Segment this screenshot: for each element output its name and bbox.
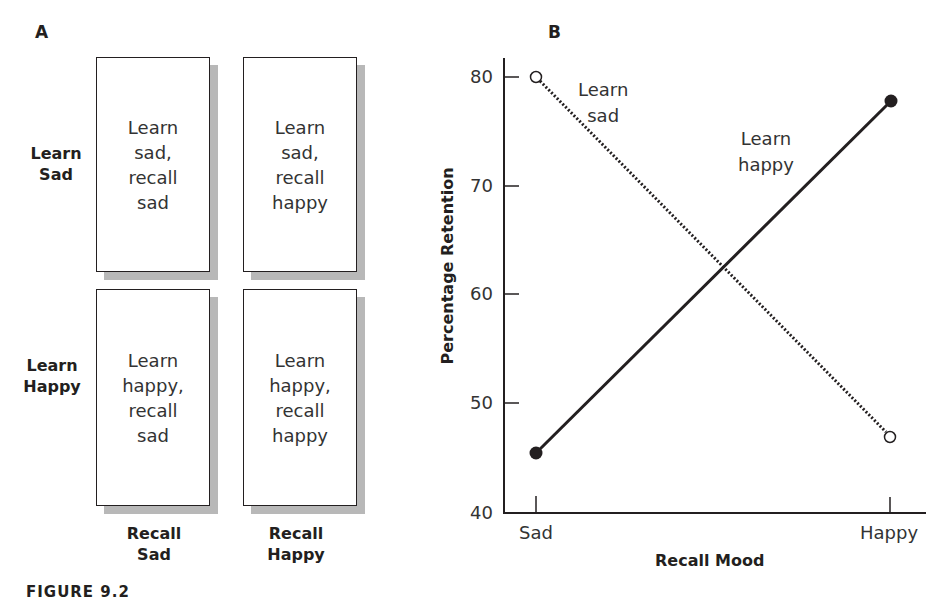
series-learn-sad-line	[540, 81, 886, 432]
open-circle-marker-icon	[531, 72, 542, 83]
x-tick-label-sad: Sad	[519, 522, 553, 543]
filled-circle-marker-icon	[530, 447, 543, 460]
y-axis-title: Percentage Retention	[438, 195, 457, 365]
y-tick-label: 70	[470, 175, 493, 196]
y-tick-label: 50	[470, 392, 493, 413]
annotation-learn-sad: Learn sad	[578, 77, 628, 129]
y-tick-label: 60	[470, 283, 493, 304]
annotation-learn-happy: Learn happy	[738, 126, 794, 178]
x-axis-title: Recall Mood	[655, 551, 764, 570]
x-tick-label-happy: Happy	[860, 522, 918, 543]
y-tick-label: 40	[470, 502, 493, 523]
y-tick-label: 80	[470, 66, 493, 87]
open-circle-marker-icon	[885, 432, 896, 443]
filled-circle-marker-icon	[885, 95, 898, 108]
series-learn-happy-line	[536, 101, 891, 453]
